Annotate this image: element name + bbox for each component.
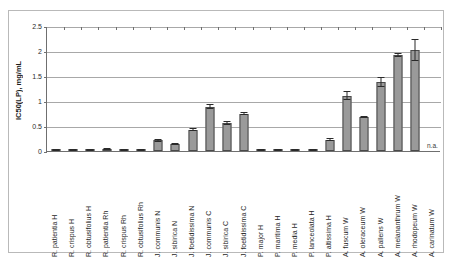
bar-slot [235, 26, 252, 151]
x-axis-tick-label: A. melananthrum W [393, 157, 402, 257]
x-axis-label-holder: R. obtusifolius Rh [135, 157, 145, 257]
error-bar-cap-bottom [378, 86, 385, 87]
bar [154, 140, 163, 151]
x-axis-label-holder: A. fuscum W [341, 157, 351, 257]
x-axis-label-holder: A. melananthrum W [392, 157, 402, 257]
y-axis-title: IC50(LP), mg/mL [13, 48, 25, 132]
error-bar-cap-top [155, 139, 162, 140]
bar-slot [150, 26, 167, 151]
x-axis-tick [201, 27, 202, 30]
x-axis-tick [235, 27, 236, 30]
bar [205, 107, 214, 152]
x-axis-label-holder: J. foetidissima N [187, 157, 197, 257]
bar [411, 50, 420, 151]
bar-slot [321, 26, 338, 151]
bar-slot [47, 26, 64, 151]
bar-slot [201, 26, 218, 151]
x-axis-label-holder: P. altissima H [324, 157, 334, 257]
x-axis-label-holder: A. rhodopeum W [409, 157, 419, 257]
x-axis-tick-label: A. rhodopeum W [410, 157, 419, 257]
bar [359, 117, 368, 152]
bar [222, 123, 231, 151]
x-axis-label-holder: J. sibirica N [169, 157, 179, 257]
x-axis-tick-label: R. patientia Rh [101, 157, 110, 257]
error-bar-cap-top [223, 121, 230, 122]
x-axis-tick-label: P. altissima H [324, 157, 333, 257]
x-axis-tick [64, 27, 65, 30]
error-bar [72, 149, 73, 151]
x-axis-tick [184, 27, 185, 30]
error-bar [278, 149, 279, 151]
error-bar [295, 149, 296, 151]
error-bar [381, 77, 382, 87]
x-axis-label-holder: R. crispus Rh [118, 157, 128, 257]
x-axis-label-holder: P. maritima H [272, 157, 282, 257]
error-bar [141, 149, 142, 151]
error-bar [175, 143, 176, 145]
x-axis-label-holder: R. obtusifolius H [84, 157, 94, 257]
x-axis-tick [98, 27, 99, 30]
x-axis-tick-label: P. maritima H [273, 157, 282, 257]
bar-slot [81, 26, 98, 151]
error-bar-cap-bottom [292, 150, 299, 151]
x-axis-label-holder: R. patientia Rh [101, 157, 111, 257]
error-bar-cap-bottom [326, 140, 333, 141]
error-bar-cap-top [189, 128, 196, 129]
bar-slot [355, 26, 372, 151]
error-bar [209, 104, 210, 109]
x-axis-label-holder: J. sibirica C [221, 157, 231, 257]
error-bar [243, 112, 244, 115]
y-axis-tick-label: 1 [24, 98, 42, 105]
error-bar [226, 121, 227, 125]
error-bar [312, 149, 313, 151]
error-bar-cap-top [343, 91, 350, 92]
error-bar-cap-bottom [223, 124, 230, 125]
x-axis-tick [167, 27, 168, 30]
error-bar [89, 149, 90, 151]
x-axis-tick-label: J. foetidissima N [187, 157, 196, 257]
x-axis-label-holder: P. major H [255, 157, 265, 257]
x-axis-tick-label: P. media H [290, 157, 299, 257]
x-axis-tick [321, 27, 322, 30]
x-axis-tick-label: R. obtusifolius Rh [136, 157, 145, 257]
x-axis-label-holder: P. lanceolata H [307, 157, 317, 257]
x-axis-tick [372, 27, 373, 30]
y-axis-tick-label: 2.5 [24, 23, 42, 30]
x-axis-tick-label: P. lanceolata H [307, 157, 316, 257]
bar [342, 96, 351, 152]
x-axis-label-holder: R. patientia H [50, 157, 60, 257]
error-bar-cap-bottom [412, 60, 419, 61]
error-bar [363, 116, 364, 118]
error-bar-cap-bottom [395, 56, 402, 57]
error-bar-cap-bottom [121, 150, 128, 151]
bar-slot [184, 26, 201, 151]
bar-slot [133, 26, 150, 151]
bar-slot [98, 26, 115, 151]
x-axis-tick-label: R. obtusifolius H [84, 157, 93, 257]
bar [394, 55, 403, 152]
x-axis-tick-label: R. patientia H [50, 157, 59, 257]
x-axis-tick [407, 27, 408, 30]
error-bar-cap-bottom [240, 114, 247, 115]
bar-slot [270, 26, 287, 151]
error-bar [124, 149, 125, 151]
error-bar [55, 149, 56, 151]
bar-slot [287, 26, 304, 151]
x-axis-tick [441, 27, 442, 30]
x-axis-label-holder: A. carinatum W [426, 157, 436, 257]
bar-slot [167, 26, 184, 151]
x-axis-label-holder: A. oleraceum W [358, 157, 368, 257]
x-axis-tick [424, 27, 425, 30]
x-axis-tick [253, 27, 254, 30]
y-axis-tick-label: 2 [24, 48, 42, 55]
bar-chart: IC50(LP), mg/mL 00.511.522.5 n.a. R. pat… [0, 0, 454, 264]
bar-slot [64, 26, 81, 151]
x-axis-tick [81, 27, 82, 30]
error-bar [106, 148, 107, 150]
error-bar-cap-top [206, 104, 213, 105]
bar-slot [218, 26, 235, 151]
x-axis-label-holder: J. communis C [204, 157, 214, 257]
error-bar [329, 138, 330, 141]
bar [377, 82, 386, 151]
error-bar-cap-bottom [258, 150, 265, 151]
